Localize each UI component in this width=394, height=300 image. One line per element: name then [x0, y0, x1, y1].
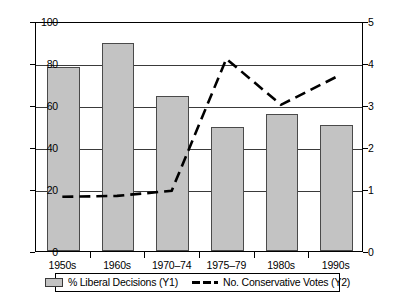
x-label-1970-74: 1970–74 [144, 259, 199, 271]
legend-label-conservative-votes: No. Conservative Votes (Y2) [223, 277, 350, 288]
x-label-1975-79: 1975–79 [199, 259, 254, 271]
y1-tick-label-80: 80 [32, 59, 58, 69]
y1-tick-label-60: 60 [32, 101, 58, 111]
chart-legend: % Liberal Decisions (Y1) No. Conservativ… [55, 273, 340, 292]
y2-tick-label-5: 5 [368, 17, 390, 27]
y2-tick-label-1: 1 [368, 185, 390, 195]
y1-tick-label-0: 0 [32, 247, 58, 257]
y1-tick-label-20: 20 [32, 185, 58, 195]
bar-swatch-icon [45, 278, 63, 287]
legend-entry-liberal-decisions: % Liberal Decisions (Y1) [45, 277, 178, 288]
x-label-1950s: 1950s [35, 259, 90, 271]
x-tick-4 [308, 252, 309, 258]
x-tick-1 [144, 252, 145, 258]
x-tick-3 [254, 252, 255, 258]
x-label-1990s: 1990s [308, 259, 363, 271]
legend-entry-conservative-votes: No. Conservative Votes (Y2) [192, 277, 350, 288]
y1-tick-label-40: 40 [32, 143, 58, 153]
x-tick-0 [90, 252, 91, 258]
y2-tick-label-3: 3 [368, 101, 390, 111]
y2-tick-label-0: 0 [368, 247, 390, 257]
legend-label-liberal-decisions: % Liberal Decisions (Y1) [68, 277, 178, 288]
y2-tick-label-4: 4 [368, 59, 390, 69]
x-label-1980s: 1980s [254, 259, 309, 271]
x-tick-2 [199, 252, 200, 258]
y2-tick-label-2: 2 [368, 143, 390, 153]
conservative-votes-line [35, 22, 363, 252]
chart-container: 100 80 60 40 20 0 5 4 3 2 1 0 1950s 1960… [0, 0, 394, 300]
x-label-1960s: 1960s [90, 259, 145, 271]
y1-tick-label-100: 100 [32, 17, 58, 27]
dashed-line-icon [192, 281, 218, 284]
